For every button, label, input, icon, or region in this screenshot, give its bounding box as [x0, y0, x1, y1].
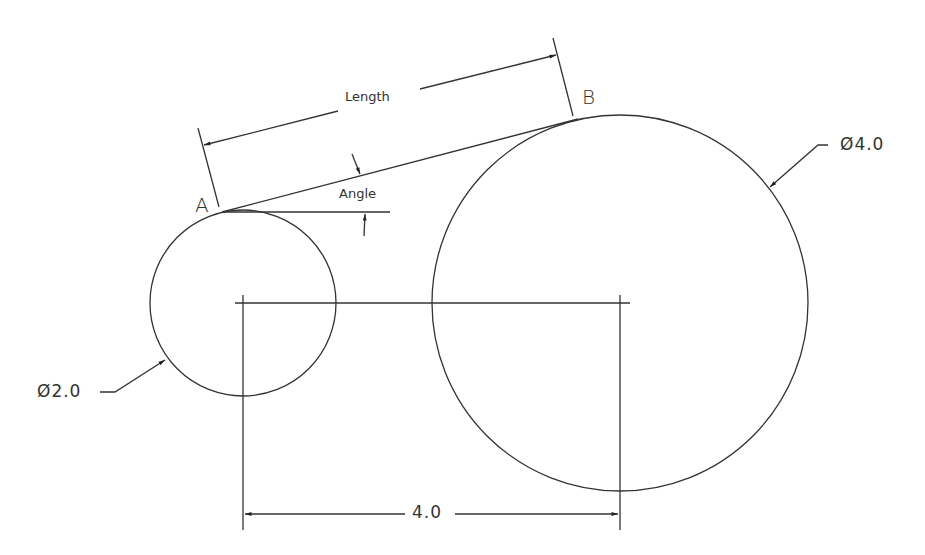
- angle-arrow-top: [352, 154, 360, 174]
- length-extension-b: [553, 38, 573, 116]
- drawing-geometry: [0, 0, 925, 555]
- large-diameter-leader: [770, 145, 828, 187]
- large-diameter-label: Ø4.0: [840, 134, 884, 154]
- small-diameter-leader: [100, 360, 165, 392]
- tangent-line: [222, 119, 578, 212]
- length-dimension-right: [420, 55, 556, 89]
- cad-drawing: Length Angle A B Ø4.0 Ø2.0 4.0: [0, 0, 925, 555]
- center-distance-label: 4.0: [412, 502, 442, 522]
- angle-label: Angle: [339, 186, 376, 201]
- length-label: Length: [345, 89, 390, 104]
- point-b-label: B: [582, 85, 595, 109]
- small-diameter-label: Ø2.0: [37, 381, 81, 401]
- length-dimension-left: [204, 111, 338, 145]
- point-a-label: A: [195, 193, 209, 217]
- angle-arrow-bottom: [364, 214, 365, 236]
